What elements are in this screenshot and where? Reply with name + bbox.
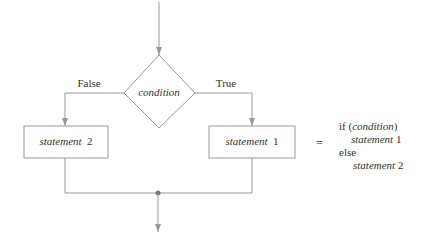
code-line-if: if (condition) [339, 120, 397, 133]
merge-line [65, 158, 252, 193]
statement-2-label: statement 2 [39, 135, 92, 148]
true-branch-line [195, 93, 252, 126]
equals-sign: = [316, 137, 323, 150]
statement-2-num: 2 [87, 135, 93, 147]
code-statement-2-word: statement [353, 159, 395, 171]
decision-label: condition [138, 86, 180, 99]
statement-1-label: statement 1 [225, 135, 278, 148]
false-branch-line [65, 93, 124, 126]
code-if-keyword: if ( [339, 120, 352, 132]
true-label: True [216, 77, 236, 90]
code-line-else: else [339, 146, 356, 159]
code-statement-1-word: statement [351, 133, 393, 145]
code-close-paren: ) [394, 120, 398, 132]
code-condition: condition [352, 120, 394, 132]
statement-1-word: statement [225, 135, 267, 147]
code-statement-1-num: 1 [396, 133, 402, 145]
false-label: False [77, 77, 100, 90]
statement-1-num: 1 [273, 135, 279, 147]
statement-2-word: statement [39, 135, 81, 147]
code-statement-2-num: 2 [398, 159, 404, 171]
code-line-statement-2: statement 2 [353, 159, 403, 172]
code-line-statement-1: statement 1 [351, 133, 401, 146]
